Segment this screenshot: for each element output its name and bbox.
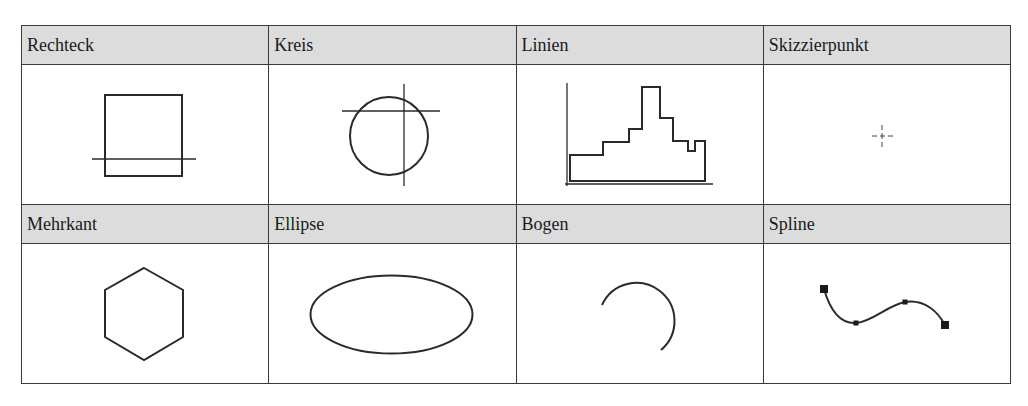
header-cell-spline: Spline	[763, 205, 1010, 244]
header-cell-ellipse: Ellipse	[269, 205, 516, 244]
sketch-entities-table: Rechteck Kreis Linien Skizzierpunkt Mehr…	[21, 25, 1011, 384]
header-cell-bogen: Bogen	[516, 205, 763, 244]
header-cell-kreis: Kreis	[269, 26, 516, 65]
figure-cell-bogen	[516, 244, 763, 384]
figure-row	[22, 244, 1011, 384]
header-row: Rechteck Kreis Linien Skizzierpunkt	[22, 26, 1011, 65]
figure-cell-spline	[763, 244, 1010, 384]
figure-row	[22, 65, 1011, 205]
header-cell-mehrkant: Mehrkant	[22, 205, 269, 244]
figure-cell-kreis	[269, 65, 516, 205]
figure-cell-ellipse	[269, 244, 516, 384]
header-row: Mehrkant Ellipse Bogen Spline	[22, 205, 1011, 244]
header-cell-linien: Linien	[516, 26, 763, 65]
figure-cell-linien	[516, 65, 763, 205]
header-cell-skizzierpunkt: Skizzierpunkt	[763, 26, 1010, 65]
figure-cell-rechteck	[22, 65, 269, 205]
header-cell-rechteck: Rechteck	[22, 26, 269, 65]
figure-cell-mehrkant	[22, 244, 269, 384]
figure-cell-skizzierpunkt	[763, 65, 1010, 205]
